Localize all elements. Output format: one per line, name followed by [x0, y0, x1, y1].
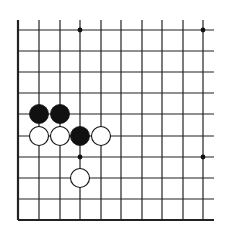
star-point-icon [78, 28, 83, 33]
black-stone[interactable] [30, 105, 49, 124]
go-board[interactable] [0, 0, 229, 238]
black-stone[interactable] [51, 105, 70, 124]
white-stone[interactable] [92, 127, 111, 146]
star-point-icon [201, 155, 206, 160]
star-point-icon [78, 155, 83, 160]
star-point-icon [201, 28, 206, 33]
white-stone[interactable] [71, 169, 90, 188]
white-stone[interactable] [51, 127, 70, 146]
black-stone[interactable] [71, 127, 90, 146]
white-stone[interactable] [30, 127, 49, 146]
